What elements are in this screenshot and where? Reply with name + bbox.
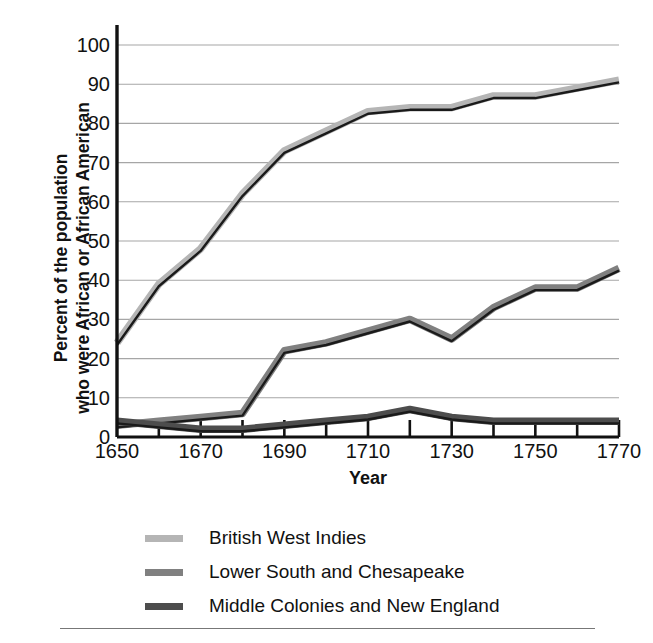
- y-axis-tick-label: 30: [72, 309, 110, 329]
- series-outline: [117, 271, 619, 428]
- x-axis-tick-label: 1750: [500, 441, 570, 461]
- legend-item: British West Indies: [145, 521, 615, 555]
- legend-item: Lower South and Chesapeake: [145, 555, 615, 589]
- y-axis-tick-label: 50: [72, 231, 110, 251]
- chart-canvas: [117, 45, 619, 437]
- x-axis-tick-labels: 1650167016901710173017501770: [117, 441, 619, 471]
- x-axis-tick-label: 1730: [417, 441, 487, 461]
- chart-legend: British West IndiesLower South and Chesa…: [145, 521, 615, 623]
- series-band: [117, 268, 619, 425]
- x-axis-tick-label: 1710: [333, 441, 403, 461]
- y-axis-tick-label: 80: [72, 113, 110, 133]
- series-band: [117, 80, 619, 343]
- plot-area: [117, 45, 619, 437]
- y-axis-tick-label: 70: [72, 153, 110, 173]
- y-axis-tick-labels: 0102030405060708090100: [66, 45, 110, 437]
- series-lines: [117, 80, 619, 431]
- y-axis-tick-label: 90: [72, 74, 110, 94]
- footer-divider: [60, 628, 595, 629]
- y-axis-tick-label: 100: [72, 35, 110, 55]
- chart-figure: Percent of the population who were Afric…: [0, 0, 653, 643]
- x-axis-tick-label: 1770: [584, 441, 653, 461]
- y-axis-tick-label: 20: [72, 349, 110, 369]
- x-axis-label: Year: [117, 468, 619, 489]
- legend-item-label: Lower South and Chesapeake: [209, 561, 465, 583]
- y-axis-tick-label: 10: [72, 388, 110, 408]
- y-axis-tick-label: 60: [72, 192, 110, 212]
- x-axis-tick-label: 1650: [82, 441, 152, 461]
- legend-swatch-icon: [145, 569, 183, 576]
- legend-swatch-icon: [145, 535, 183, 542]
- legend-item-label: British West Indies: [209, 527, 366, 549]
- legend-swatch-icon: [145, 603, 183, 610]
- legend-item-label: Middle Colonies and New England: [209, 595, 499, 617]
- y-axis-tick-label: 40: [72, 270, 110, 290]
- series-outline: [117, 82, 619, 345]
- x-axis-tick-label: 1690: [249, 441, 319, 461]
- legend-item: Middle Colonies and New England: [145, 589, 615, 623]
- x-axis-tick-label: 1670: [166, 441, 236, 461]
